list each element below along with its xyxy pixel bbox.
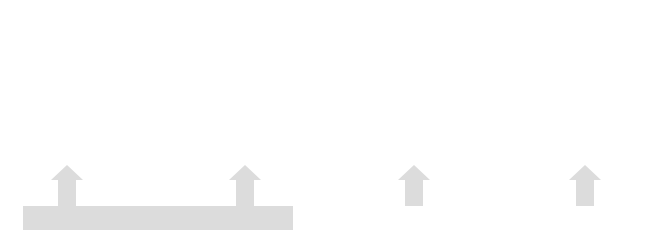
up-arrow-icon bbox=[398, 165, 430, 206]
up-arrow-icon bbox=[229, 165, 261, 206]
epsilon-delta-diagram bbox=[0, 0, 666, 244]
up-arrow-icon bbox=[569, 165, 601, 206]
up-arrow-icon bbox=[51, 165, 83, 206]
up-arrows bbox=[51, 165, 601, 206]
